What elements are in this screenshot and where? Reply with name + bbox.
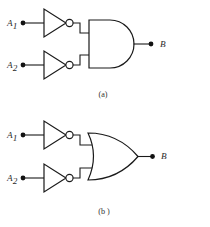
caption-panel-b: (b ) [98,207,110,216]
panel-b-group: A1 A2 B (b ) [6,121,167,216]
or-gate-body [88,133,138,180]
caption-panel-a: (a) [98,90,107,99]
inverter-2-triangle-b [44,164,66,192]
label-input-b-a2: A2 [6,173,18,186]
panel-a-group: A1 A2 B (a) [6,9,166,99]
and-gate-body [89,20,134,68]
logic-gate-figure: A1 A2 B (a) [0,0,210,227]
label-input-a2: A2 [6,60,18,73]
inverter-2-bubble-a [66,61,73,68]
inverter-1-triangle-a [44,9,66,37]
label-output-b-a: B [160,39,166,49]
inverter-1-bubble-a [66,19,73,26]
label-output-b-b: B [161,151,167,161]
wire-inverter-1-to-and [73,23,89,33]
inverter-1-bubble-b [66,131,73,138]
wire-inverter-2-to-and [73,55,89,65]
output-terminal-b-dot-b [150,154,155,159]
inverter-2-bubble-b [66,174,73,181]
label-input-b-a1: A1 [6,130,17,143]
inverter-2-triangle-a [44,51,66,79]
label-input-a1: A1 [6,18,17,31]
inverter-1-triangle-b [44,121,66,149]
logic-diagram-svg: A1 A2 B (a) [0,0,210,227]
output-terminal-b-dot-a [149,42,154,47]
